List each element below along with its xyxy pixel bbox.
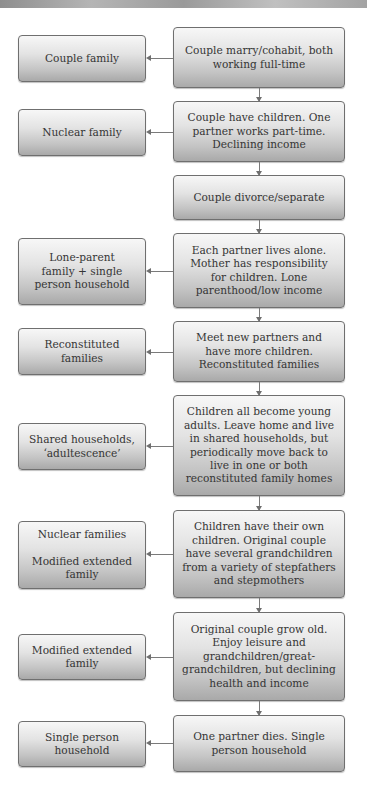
stage-text: Each partner lives alone. Mother has res… (190, 244, 328, 298)
stage-box-3: Couple divorce/separate (173, 175, 345, 220)
arrow-to-family-type-4 (150, 271, 173, 272)
stage-box-4: Each partner lives alone. Mother has res… (173, 233, 345, 308)
stage-box-1: Couple marry/cohabit, both working full-… (173, 27, 345, 88)
arrow-to-family-type-6 (150, 446, 173, 447)
stage-box-7: Children have their own children. Origin… (173, 510, 345, 598)
stage-text: Children have their own children. Origin… (182, 520, 336, 587)
arrow-down-1 (259, 88, 260, 101)
stage-box-9: One partner dies. Single person househol… (173, 715, 345, 772)
family-type-text: Modified extended family (32, 644, 132, 671)
stage-text: Meet new partners and have more children… (196, 331, 322, 371)
top-decorative-band (0, 0, 367, 8)
family-type-box-2: Nuclear family (18, 109, 146, 156)
arrow-to-family-type-9 (150, 743, 173, 744)
family-type-text: Nuclear families Modified extended famil… (32, 528, 132, 582)
family-type-text: Reconstituted families (45, 338, 120, 365)
arrow-left-icon (146, 654, 151, 660)
arrow-to-family-type-1 (150, 58, 173, 59)
arrow-down-6 (259, 496, 260, 510)
family-type-text: Nuclear family (42, 126, 121, 139)
arrow-left-icon (146, 268, 151, 274)
arrow-down-3 (259, 220, 260, 233)
stage-box-6: Children all become young adults. Leave … (173, 395, 345, 496)
arrow-left-icon (146, 349, 151, 355)
family-type-box-5: Reconstituted families (18, 328, 146, 375)
family-type-text: Couple family (45, 52, 119, 65)
family-type-box-4: Lone-parent family + single person house… (18, 238, 146, 305)
arrow-to-family-type-7 (150, 554, 173, 555)
stage-text: Children all become young adults. Leave … (184, 405, 334, 485)
family-type-box-8: Modified extended family (18, 634, 146, 680)
stage-text: Couple divorce/separate (193, 191, 324, 204)
arrow-down-4 (259, 308, 260, 321)
arrow-left-icon (146, 129, 151, 135)
family-type-box-1: Couple family (18, 35, 146, 82)
family-type-text: Single person household (45, 731, 119, 758)
arrow-left-icon (146, 551, 151, 557)
arrow-down-7 (259, 598, 260, 612)
arrow-left-icon (146, 740, 151, 746)
arrow-to-family-type-5 (150, 352, 173, 353)
stage-box-2: Couple have children. One partner works … (173, 101, 345, 162)
family-type-box-6: Shared households, ‘adultescence’ (18, 423, 146, 470)
stage-box-8: Original couple grow old. Enjoy leisure … (173, 612, 345, 701)
arrow-to-family-type-2 (150, 132, 173, 133)
arrow-down-2 (259, 162, 260, 175)
stage-text: Couple marry/cohabit, both working full-… (185, 44, 333, 71)
family-type-text: Shared households, ‘adultescence’ (29, 433, 135, 460)
stage-box-5: Meet new partners and have more children… (173, 321, 345, 382)
arrow-to-family-type-8 (150, 657, 173, 658)
stage-text: Couple have children. One partner works … (188, 111, 331, 151)
arrow-left-icon (146, 443, 151, 449)
arrow-down-5 (259, 382, 260, 395)
arrow-down-8 (259, 701, 260, 715)
family-type-box-9: Single person household (18, 721, 146, 767)
arrow-left-icon (146, 55, 151, 61)
stage-text: One partner dies. Single person househol… (193, 730, 325, 757)
stage-text: Original couple grow old. Enjoy leisure … (182, 623, 336, 690)
family-type-text: Lone-parent family + single person house… (34, 251, 129, 291)
family-type-box-7: Nuclear families Modified extended famil… (18, 521, 146, 589)
